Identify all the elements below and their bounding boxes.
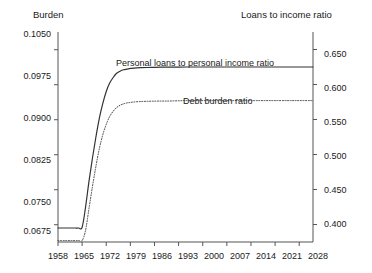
chart-figure: Burden Loans to income ratio 0.1050 0.09… [0,0,372,273]
x-axis-ticks [58,242,299,246]
left-axis-ticks [54,50,58,225]
right-axis-ticks [313,50,317,225]
data-series-layer [58,67,313,241]
plot-canvas [0,0,372,273]
series-line [58,67,313,229]
series-line [58,101,313,242]
